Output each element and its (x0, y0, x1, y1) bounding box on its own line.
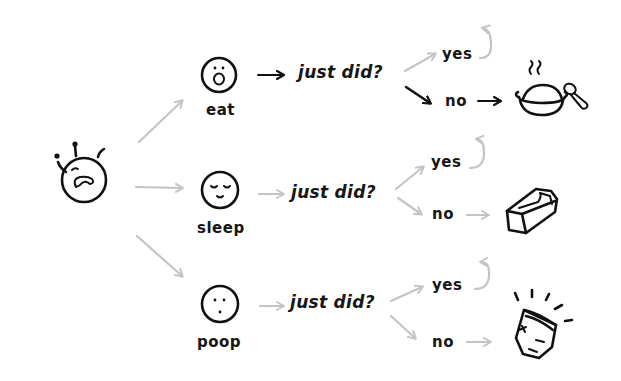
branch-label-eat: eat (206, 103, 235, 118)
neutral-face-icon (202, 286, 238, 322)
bassinet-icon (507, 189, 557, 233)
surprised-face-icon (202, 58, 236, 92)
poop-yes-loop-arrow (475, 262, 489, 289)
sleep-yes-loop-arrow (470, 139, 484, 168)
poop-question: just did? (290, 294, 375, 311)
crying-baby-face-icon (54, 141, 106, 202)
diaper-icon (515, 290, 572, 358)
sleeping-face-icon (202, 172, 238, 208)
sleep-question: just did? (291, 184, 376, 201)
sleep-no-label: no (432, 207, 454, 222)
poop-no-label: no (432, 335, 454, 350)
eat-yes-arrow (405, 54, 435, 71)
poop-no-arrow (391, 316, 415, 338)
eat-yes-label: yes (442, 47, 472, 62)
eat-no-label: no (445, 94, 467, 109)
branch-label-poop: poop (197, 335, 241, 350)
branch-label-sleep: sleep (197, 221, 245, 236)
sleep-no-arrow (398, 198, 421, 214)
eat-yes-loop-arrow (480, 28, 491, 58)
poop-yes-arrow (391, 287, 422, 301)
sleep-yes-label: yes (431, 155, 461, 170)
food-bowl-spoon-icon (516, 61, 588, 115)
sleep-yes-arrow (396, 167, 423, 189)
eat-no-arrow (406, 87, 430, 103)
poop-yes-label: yes (432, 278, 462, 293)
root-connectors (136, 101, 182, 276)
eat-question: just did? (298, 64, 383, 81)
flowchart-canvas: eat sleep poop just did? just did? just … (0, 0, 621, 381)
